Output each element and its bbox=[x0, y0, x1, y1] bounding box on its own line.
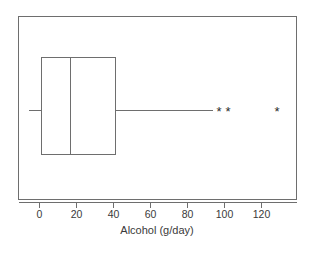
x-tick-label: 60 bbox=[145, 208, 157, 220]
plot-frame bbox=[19, 17, 297, 200]
outlier-marker: * bbox=[274, 104, 279, 119]
x-tick-label: 0 bbox=[37, 208, 43, 220]
outlier-marker: * bbox=[225, 104, 230, 119]
x-tick-label: 80 bbox=[182, 208, 194, 220]
x-axis-title: Alcohol (g/day) bbox=[120, 224, 193, 236]
outlier-marker: * bbox=[216, 104, 221, 119]
x-tick-label: 100 bbox=[216, 208, 234, 220]
box-iqr bbox=[42, 58, 116, 155]
x-tick-label: 40 bbox=[108, 208, 120, 220]
x-tick-label: 120 bbox=[253, 208, 271, 220]
x-tick-label: 20 bbox=[71, 208, 83, 220]
boxplot-figure: * * * 0 20 40 60 80 100 120 Alcohol (g/d… bbox=[0, 0, 314, 254]
boxplot-canvas: * * * 0 20 40 60 80 100 120 Alcohol (g/d… bbox=[0, 0, 314, 254]
